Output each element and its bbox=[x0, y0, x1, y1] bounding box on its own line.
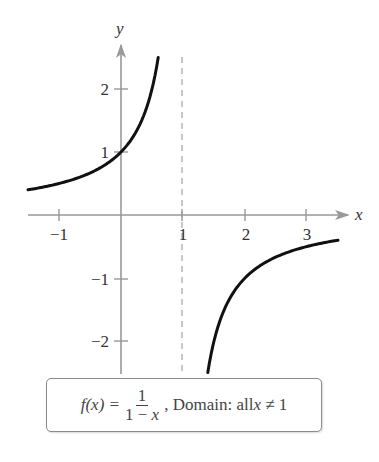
fraction-numerator: 1 bbox=[136, 387, 149, 406]
curve-right-branch bbox=[208, 240, 338, 372]
y-tick-label: −1 bbox=[91, 270, 109, 289]
domain-condition: ≠ 1 bbox=[261, 395, 287, 415]
x-axis-label: x bbox=[354, 205, 363, 224]
function-name: f(x) = bbox=[81, 395, 120, 415]
fraction: 1 1 − x bbox=[123, 387, 161, 424]
x-tick-label: −1 bbox=[50, 225, 68, 244]
denominator-constant: 1 − bbox=[125, 405, 152, 424]
curve-left-branch bbox=[28, 58, 158, 190]
function-caption-box: f(x) = 1 1 − x , Domain: all x ≠ 1 bbox=[46, 378, 322, 432]
y-tick-label: 2 bbox=[101, 80, 110, 99]
domain-text: , Domain: all bbox=[164, 395, 253, 415]
y-axis-label: y bbox=[114, 19, 124, 38]
x-tick-label: 2 bbox=[242, 225, 251, 244]
x-tick-label: 1 bbox=[179, 225, 188, 244]
y-tick-label: 1 bbox=[101, 143, 110, 162]
y-tick-label: −2 bbox=[91, 332, 109, 351]
x-tick-label: 3 bbox=[303, 225, 312, 244]
domain-variable: x bbox=[253, 395, 261, 415]
denominator-variable: x bbox=[152, 405, 160, 424]
fraction-denominator: 1 − x bbox=[123, 406, 161, 424]
